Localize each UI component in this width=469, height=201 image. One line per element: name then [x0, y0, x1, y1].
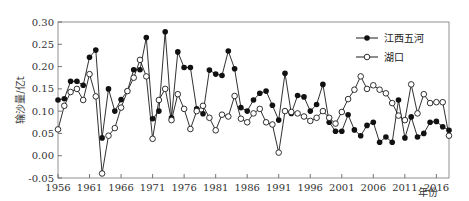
x-tick-label: 2011 — [392, 182, 417, 193]
open-data-point — [276, 150, 282, 156]
x-tick-label: 1986 — [234, 182, 259, 193]
y-tick-label: 0.15 — [32, 83, 54, 94]
open-data-point — [270, 122, 276, 128]
filled-data-point — [238, 105, 244, 111]
open-data-point — [99, 171, 105, 177]
y-tick-label: 0.20 — [32, 61, 54, 72]
x-axis-title: 年份 — [418, 186, 438, 198]
legend-label-jiangxi: 江西五河 — [384, 33, 424, 44]
open-data-point — [333, 121, 339, 127]
open-data-point — [226, 114, 232, 120]
open-data-point — [150, 136, 156, 142]
series-hukou — [58, 60, 449, 174]
markers-hukou — [55, 57, 452, 176]
filled-data-point — [55, 97, 61, 103]
open-data-point — [434, 99, 440, 105]
filled-data-point — [408, 114, 414, 120]
open-data-point — [383, 91, 389, 97]
filled-data-point — [144, 35, 150, 41]
open-data-point — [125, 88, 131, 94]
filled-data-point — [282, 71, 288, 77]
open-data-point — [232, 93, 238, 99]
filled-data-point — [118, 97, 124, 103]
filled-data-point — [207, 67, 213, 73]
open-data-point — [68, 89, 74, 95]
open-data-point — [156, 97, 162, 103]
filled-data-point — [434, 119, 440, 125]
chart-legend: 江西五河 湖口 — [356, 33, 424, 63]
open-data-point — [263, 120, 269, 126]
filled-data-point — [308, 108, 314, 114]
open-data-point — [213, 128, 219, 134]
x-tick-label: 2006 — [361, 182, 386, 193]
open-data-point — [62, 103, 68, 109]
open-data-point — [93, 94, 99, 100]
filled-data-point — [263, 88, 269, 94]
series-line — [58, 60, 449, 174]
filled-data-point — [112, 108, 118, 114]
filled-data-point — [150, 116, 156, 122]
filled-data-point — [251, 97, 257, 103]
filled-data-point — [93, 47, 99, 53]
open-data-point — [131, 75, 137, 81]
y-tick-label: 0.05 — [32, 128, 54, 139]
filled-data-point — [106, 86, 112, 92]
open-data-point — [295, 111, 301, 117]
open-data-point — [320, 108, 326, 114]
open-data-point — [301, 114, 307, 120]
open-data-point — [74, 86, 80, 92]
open-data-point — [427, 100, 433, 106]
legend-label-hukou: 湖口 — [384, 52, 404, 63]
open-data-point — [238, 116, 244, 122]
open-data-point — [396, 113, 402, 119]
open-data-point — [106, 133, 112, 139]
filled-data-point — [314, 102, 320, 108]
open-data-point — [118, 105, 124, 111]
open-data-point — [87, 71, 93, 77]
open-data-point — [421, 91, 427, 97]
open-data-point — [188, 126, 194, 132]
filled-data-point — [175, 49, 181, 55]
filled-data-point — [200, 111, 206, 117]
open-data-point — [181, 106, 187, 112]
filled-data-point — [270, 103, 276, 109]
filled-data-point — [137, 67, 143, 73]
open-data-point — [144, 74, 150, 80]
filled-data-point — [295, 93, 301, 99]
x-tick-label: 1956 — [45, 182, 70, 193]
open-data-point — [377, 87, 383, 93]
legend-item-jiangxi: 江西五河 — [356, 33, 424, 44]
open-circle-marker-icon — [364, 54, 370, 60]
open-data-point — [308, 118, 314, 124]
y-axis-title: 输沙量/亿t — [14, 76, 26, 123]
open-data-point — [358, 74, 364, 80]
open-data-point — [289, 109, 295, 115]
open-data-point — [389, 100, 395, 106]
open-data-point — [282, 108, 288, 114]
open-data-point — [314, 115, 320, 121]
x-tick-label: 1996 — [298, 182, 323, 193]
filled-data-point — [188, 65, 194, 71]
filled-data-point — [162, 29, 168, 35]
filled-data-point — [226, 48, 232, 54]
open-data-point — [112, 125, 118, 131]
filled-data-point — [301, 94, 307, 100]
open-data-point — [415, 111, 421, 117]
x-tick-label: 1961 — [77, 182, 102, 193]
x-tick-label: 1981 — [203, 182, 228, 193]
filled-data-point — [131, 67, 137, 73]
y-tick-label: 0.30 — [32, 17, 54, 28]
filled-data-point — [352, 127, 358, 133]
open-data-point — [440, 99, 446, 105]
open-data-point — [352, 87, 358, 93]
open-data-point — [371, 83, 377, 89]
filled-data-point — [358, 133, 364, 139]
filled-data-point — [87, 54, 93, 60]
open-data-point — [244, 120, 250, 126]
filled-data-point — [244, 108, 250, 114]
legend-item-hukou: 湖口 — [356, 52, 404, 63]
open-data-point — [162, 86, 168, 92]
filled-data-point — [402, 135, 408, 141]
open-data-point — [175, 91, 181, 97]
filled-data-point — [339, 128, 345, 134]
